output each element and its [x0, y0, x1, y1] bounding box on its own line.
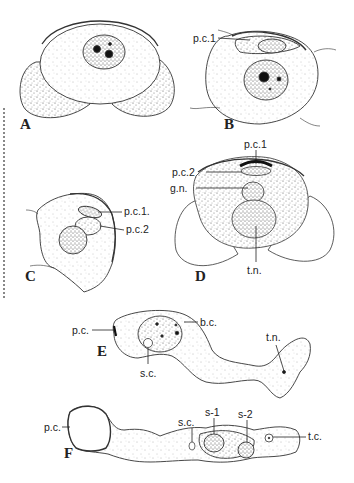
panel-f-sc — [189, 442, 195, 450]
panel-label-d: D — [195, 268, 206, 284]
label-f-tc: t.c. — [308, 430, 322, 442]
label-c-pc2: p.c.2 — [126, 223, 149, 235]
label-c-pc1: p.c.1. — [124, 205, 150, 217]
panel-c — [26, 193, 124, 292]
label-d-pc1: p.c.1 — [244, 138, 267, 150]
panel-b — [190, 30, 336, 126]
panel-label-a: A — [20, 116, 31, 132]
label-e-tn: t.n. — [266, 331, 281, 343]
panel-f-s1 — [204, 434, 224, 452]
panel-b-pc1-nucleus — [258, 39, 286, 53]
panel-label-c: C — [25, 268, 36, 284]
label-f-pc: p.c. — [44, 421, 61, 433]
label-f-sc: s.c. — [178, 416, 194, 428]
label-b-pc1: p.c.1 — [193, 32, 216, 44]
panel-a-nucleus — [83, 35, 125, 69]
panel-d-gn — [242, 182, 264, 202]
panel-a — [20, 21, 174, 118]
label-f-s2: s-2 — [238, 408, 253, 420]
label-f-s1: s-1 — [205, 406, 220, 418]
panel-label-b: B — [224, 116, 234, 132]
panel-d-pc2 — [241, 167, 271, 176]
label-d-tn: t.n. — [247, 264, 262, 276]
panel-f-s2 — [238, 442, 254, 458]
panel-label-f: F — [64, 445, 73, 461]
label-e-pc: p.c. — [72, 324, 89, 336]
label-d-gn: g.n. — [170, 182, 188, 194]
panel-d — [175, 150, 334, 266]
panel-c-nucleus — [59, 226, 87, 254]
label-d-pc2: p.c.2 — [172, 166, 195, 178]
panel-d-tn — [232, 200, 276, 238]
figure-canvas: A p.c.1 B p.c.1. p.c.2 C — [0, 0, 354, 483]
label-e-bc: b.c. — [200, 316, 217, 328]
panel-f — [62, 406, 306, 462]
panel-label-e: E — [97, 343, 107, 359]
label-e-sc: s.c. — [140, 367, 156, 379]
